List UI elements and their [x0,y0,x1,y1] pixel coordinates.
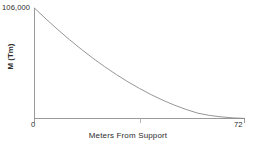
x-axis-min-tick-label: 0 [31,120,35,129]
y-axis-max-tick-label: 106,000 [2,3,30,12]
chart-curve-group [35,8,245,118]
x-axis-max-tick-label: 72 [234,120,243,129]
x-axis-title: Meters From Support [0,131,256,140]
chart-plot-area [0,0,256,148]
y-axis-title: M (Tm) [6,34,15,80]
bending-moment-curve [35,8,245,118]
chart-axes [34,8,245,123]
bending-moment-chart: 106,000 0 72 M (Tm) Meters From Support [0,0,256,148]
